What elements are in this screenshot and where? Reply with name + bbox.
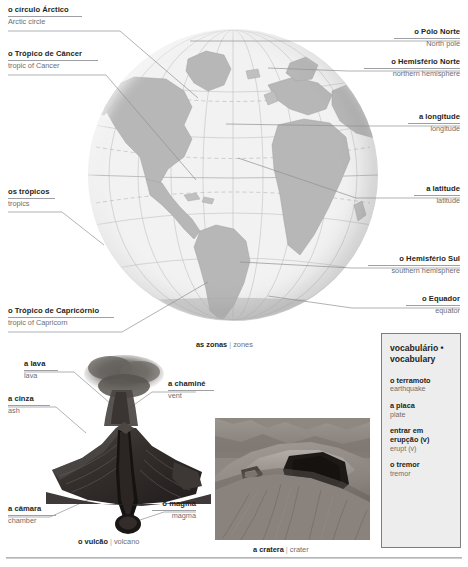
label-magma: o magma magma	[152, 500, 196, 520]
worksheet-page: o círculo Árctico Arctic circle o Trópic…	[0, 0, 468, 567]
label-longitude-en: longitude	[408, 124, 460, 134]
vocabulary-item-pt: entrar em erupção (v)	[390, 427, 452, 445]
label-tropics-en: tropics	[8, 199, 55, 209]
label-magma-en: magma	[152, 511, 196, 521]
caption-crater: a cratera|crater	[253, 545, 309, 554]
label-vent-en: vent	[168, 391, 214, 401]
label-lava: a lava lava	[24, 360, 58, 380]
vocabulary-item-en: plate	[390, 411, 452, 420]
label-latitude-pt: a latitude	[414, 185, 460, 195]
page-bottom-rule	[6, 557, 462, 559]
caption-volcano-pt: o vulcão	[78, 537, 108, 546]
label-tropic-of-capricorn: o Trópico de Capricórnio tropic of Capri…	[8, 307, 114, 327]
label-chamber: a câmara chamber	[8, 505, 56, 525]
label-latitude: a latitude latitude	[414, 185, 460, 205]
label-chamber-en: chamber	[8, 516, 56, 526]
vocabulary-title-pt: vocabulário •	[390, 343, 452, 354]
label-chamber-pt: a câmara	[8, 505, 56, 515]
label-tropic-of-capricorn-pt: o Trópico de Capricórnio	[8, 307, 114, 317]
label-arctic-circle-pt: o círculo Árctico	[8, 6, 82, 16]
label-north-pole-en: North pole	[394, 39, 460, 49]
vocabulary-item-en: earthquake	[390, 385, 452, 394]
vocabulary-item-pt: o terramoto	[390, 377, 452, 386]
vocabulary-title: vocabulário • vocabulary	[390, 343, 452, 366]
crater-photo-svg	[215, 418, 370, 540]
vocabulary-title-en: vocabulary	[390, 354, 452, 365]
label-lava-pt: a lava	[24, 360, 58, 370]
label-southern-hemisphere: o Hemisfério Sul southern hemisphere	[368, 255, 460, 275]
leader-tropics	[8, 212, 104, 245]
label-north-pole-pt: o Pólo Norte	[394, 28, 460, 38]
label-longitude: a longitude longitude	[408, 113, 460, 133]
vocabulary-item-pt: a placa	[390, 402, 452, 411]
label-ash: a cinza ash	[8, 395, 50, 415]
vocabulary-item: o terramoto earthquake	[390, 377, 452, 394]
label-southern-hemisphere-en: southern hemisphere	[368, 266, 460, 276]
vocabulary-item-en: tremor	[390, 470, 452, 479]
vocabulary-box: vocabulário • vocabulary o terramoto ear…	[381, 333, 461, 548]
label-ash-en: ash	[8, 406, 50, 416]
label-equator: o Equador equator	[406, 295, 460, 315]
label-tropics-pt: os trópicos	[8, 188, 55, 198]
label-northern-hemisphere-pt: o Hemisfério Norte	[364, 58, 460, 68]
label-latitude-en: latitude	[414, 196, 460, 206]
vocabulary-item: entrar em erupção (v) erupt (v)	[390, 427, 452, 453]
caption-crater-pt: a cratera	[253, 545, 284, 554]
vocabulary-item: a placa plate	[390, 402, 452, 419]
label-northern-hemisphere: o Hemisfério Norte northern hemisphere	[364, 58, 460, 78]
vocabulary-item-en: erupt (v)	[390, 445, 452, 454]
label-tropic-of-cancer-pt: o Trópico de Câncer	[8, 50, 98, 60]
label-tropics: os trópicos tropics	[8, 188, 55, 208]
label-arctic-circle: o círculo Árctico Arctic circle	[8, 6, 82, 26]
caption-zones-pt: as zonas	[196, 340, 227, 349]
label-northern-hemisphere-en: northern hemisphere	[364, 69, 460, 79]
label-ash-pt: a cinza	[8, 395, 50, 405]
vocabulary-item: o tremor tremor	[390, 461, 452, 478]
caption-volcano: o vulcão|volcano	[78, 537, 139, 546]
crater-photo	[215, 418, 370, 540]
caption-volcano-en: volcano	[114, 537, 139, 546]
label-arctic-circle-en: Arctic circle	[8, 17, 82, 27]
leader-tropic-of-cancer	[8, 75, 196, 180]
label-magma-pt: o magma	[152, 500, 196, 510]
label-lava-en: lava	[24, 371, 58, 381]
caption-zones: as zonas|zones	[196, 340, 253, 349]
label-southern-hemisphere-pt: o Hemisfério Sul	[368, 255, 460, 265]
label-vent: a chaminé vent	[168, 380, 214, 400]
caption-crater-en: crater	[290, 545, 309, 554]
label-tropic-of-cancer: o Trópico de Câncer tropic of Cancer	[8, 50, 98, 70]
label-vent-pt: a chaminé	[168, 380, 214, 390]
label-equator-en: equator	[406, 306, 460, 316]
label-north-pole: o Pólo Norte North pole	[394, 28, 460, 48]
label-tropic-of-cancer-en: tropic of Cancer	[8, 61, 98, 71]
caption-zones-en: zones	[233, 340, 253, 349]
label-tropic-of-capricorn-en: tropic of Capricorn	[8, 318, 114, 328]
vocabulary-item-pt: o tremor	[390, 461, 452, 470]
label-longitude-pt: a longitude	[408, 113, 460, 123]
label-equator-pt: o Equador	[406, 295, 460, 305]
